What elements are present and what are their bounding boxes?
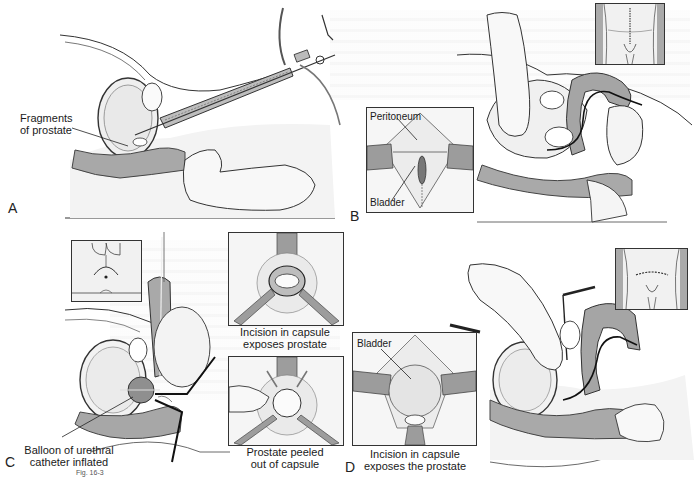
caption-incision-exposes-the-prostate: Incision in capsule exposes the prostate (355, 448, 475, 472)
panel-letter-d: D (345, 459, 355, 475)
label-peritoneum: Peritoneum (370, 111, 421, 123)
panel-a: Fragments of prostate A (0, 0, 345, 225)
panel-d: Bladder Incision in capsule exposes the … (345, 240, 694, 477)
panel-letter-c: C (5, 454, 15, 470)
inset-perineum-incision (71, 240, 142, 302)
prostate-peeled-illustration (229, 357, 343, 445)
panel-letter-b: B (350, 208, 359, 224)
panel-letter-a: A (8, 200, 17, 216)
caption-incision-exposes-prostate: Incision in capsule exposes prostate (228, 326, 342, 350)
inset-body-incision-d (615, 248, 688, 310)
panel-b: Peritoneum Bladder B (347, 0, 694, 225)
figure-caption-fragment: Fig. 16-3 (76, 469, 104, 476)
inset-bladder-capsule: Bladder (352, 332, 477, 446)
label-bladder: Bladder (370, 197, 404, 209)
capsule-incision-illustration (229, 233, 343, 325)
inset-incision-capsule (228, 232, 344, 326)
inset-prostate-peeled (228, 356, 344, 446)
perineum-icon (72, 241, 141, 301)
caption-prostate-peeled: Prostate peeled out of capsule (228, 446, 342, 470)
panel-c: Incision in capsule exposes prostate Pro… (0, 232, 345, 477)
inset-peritoneum-bladder: Peritoneum Bladder (366, 107, 474, 213)
inset-body-incision-b (595, 3, 665, 65)
lower-abdomen-transverse-icon (616, 249, 687, 309)
label-bladder-d: Bladder (357, 338, 391, 350)
label-fragments-of-prostate: Fragments of prostate (20, 112, 73, 136)
lower-abdomen-icon (596, 4, 664, 64)
label-balloon-catheter: Balloon of urethral catheter inflated (14, 444, 124, 468)
